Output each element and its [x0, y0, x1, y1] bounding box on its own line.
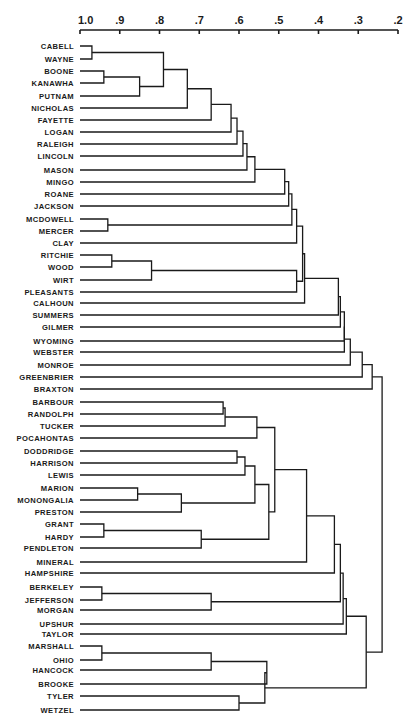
county-label: PLEASANTS: [24, 288, 74, 297]
axis-tick-label: .2: [393, 14, 402, 26]
dendrogram-link: [80, 516, 334, 573]
county-label: MARSHALL: [28, 642, 74, 651]
county-label: WETZEL: [40, 706, 74, 715]
axis-tick-label: .6: [234, 14, 243, 26]
axis-tick-label: .3: [354, 14, 363, 26]
county-label: BARBOUR: [32, 398, 74, 407]
dendrogram-link: [80, 209, 297, 243]
county-label: MCDOWELL: [26, 215, 74, 224]
dendrogram-link: [297, 226, 303, 281]
county-label: POCAHONTAS: [17, 434, 74, 443]
county-label: CALHOUN: [33, 299, 74, 308]
dendrogram-tree: [80, 46, 382, 710]
county-label: NICHOLAS: [31, 104, 74, 113]
dendrogram-chart: 1.0.9.8.7.6.5.4.3.2 CABELLWAYNEBOONEKANA…: [0, 0, 406, 723]
axis-tick-label: .8: [155, 14, 164, 26]
county-label: FAYETTE: [38, 116, 74, 125]
dendrogram-link: [80, 255, 112, 267]
county-label: MARION: [41, 484, 74, 493]
county-label: UPSHUR: [40, 620, 75, 629]
dendrogram-link: [239, 673, 267, 703]
county-label: WEBSTER: [33, 348, 74, 357]
dendrogram-link: [80, 662, 267, 685]
dendrogram-link: [80, 118, 237, 144]
dendrogram-link: [80, 326, 344, 352]
county-label: TAYLOR: [42, 630, 74, 639]
dendrogram-link: [80, 46, 92, 59]
dendrogram-link: [201, 485, 269, 540]
county-label: BROOKE: [38, 680, 74, 689]
dendrogram-link: [80, 599, 346, 634]
county-label: TYLER: [47, 692, 74, 701]
dendrogram-link: [366, 377, 382, 652]
county-label: MINGO: [46, 178, 74, 187]
county-label: JEFFERSON: [25, 596, 74, 605]
county-label: HAMPSHIRE: [25, 569, 74, 578]
axis-tick-label: .4: [314, 14, 324, 26]
county-label: GRANT: [45, 520, 74, 529]
dendrogram-link: [265, 616, 366, 688]
county-label: ROANE: [45, 190, 74, 199]
dendrogram-link: [80, 408, 225, 426]
county-label: RANDOLPH: [28, 410, 74, 419]
dendrogram-link: [80, 646, 102, 660]
dendrogram-link: [92, 53, 164, 87]
dendrogram-link: [108, 194, 292, 225]
county-label: LEWIS: [48, 471, 74, 480]
county-label: HARRISON: [30, 459, 74, 468]
dendrogram-link: [257, 428, 275, 512]
similarity-axis: 1.0.9.8.7.6.5.4.3.2: [78, 14, 403, 34]
county-label: LOGAN: [45, 128, 74, 137]
county-label: PUTNAM: [39, 92, 74, 101]
axis-tick-label: .9: [115, 14, 124, 26]
county-label: RALEIGH: [37, 140, 74, 149]
county-label: TUCKER: [40, 422, 74, 431]
dendrogram-link: [80, 89, 211, 120]
county-label: OHIO: [53, 656, 74, 665]
dendrogram-link: [181, 466, 255, 503]
county-label: HARDY: [45, 533, 74, 542]
dendrogram-link: [80, 278, 338, 315]
dendrogram-link: [80, 494, 181, 512]
county-label: GILMER: [42, 323, 74, 332]
county-label: JACKSON: [34, 202, 74, 211]
dendrogram-link: [80, 587, 102, 600]
county-label: MONROE: [37, 361, 74, 370]
dendrogram-link: [80, 488, 138, 500]
county-label: BRAXTON: [34, 385, 74, 394]
county-label: SUMMERS: [32, 311, 74, 320]
county-label: HANCOCK: [32, 666, 74, 675]
axis-tick-label: .7: [195, 14, 204, 26]
county-label: PRESTON: [35, 508, 74, 517]
county-label: BOONE: [44, 67, 74, 76]
county-label: MORGAN: [37, 606, 74, 615]
county-label: CLAY: [52, 239, 74, 248]
dendrogram-link: [80, 297, 340, 327]
dendrogram-link: [80, 402, 223, 414]
axis-tick-label: .5: [274, 14, 283, 26]
county-label: BERKELEY: [29, 583, 74, 592]
axis-tick-label: 1.0: [78, 14, 93, 26]
county-label: CABELL: [41, 42, 74, 51]
county-label: MERCER: [39, 227, 74, 236]
dendrogram-link: [80, 594, 211, 611]
county-label: WIRT: [53, 276, 74, 285]
dendrogram-link: [80, 271, 297, 293]
county-label: PENDLETON: [24, 544, 74, 553]
county-label: WYOMING: [33, 337, 74, 346]
county-label: GREENBRIER: [19, 373, 74, 382]
dendrogram-link: [80, 144, 247, 170]
county-label: KANAWHA: [32, 79, 75, 88]
dendrogram-link: [80, 457, 245, 475]
dendrogram-link: [80, 219, 108, 231]
dendrogram-link: [80, 696, 239, 710]
county-label: WAYNE: [45, 55, 74, 64]
dendrogram-link: [80, 71, 104, 83]
dendrogram-link: [80, 653, 211, 670]
county-label: WOOD: [48, 263, 74, 272]
county-label: RITCHIE: [41, 251, 74, 260]
dendrogram-link: [80, 77, 140, 96]
dendrogram-link: [80, 451, 237, 463]
county-label: MINERAL: [37, 558, 74, 567]
dendrogram-link: [80, 70, 187, 109]
